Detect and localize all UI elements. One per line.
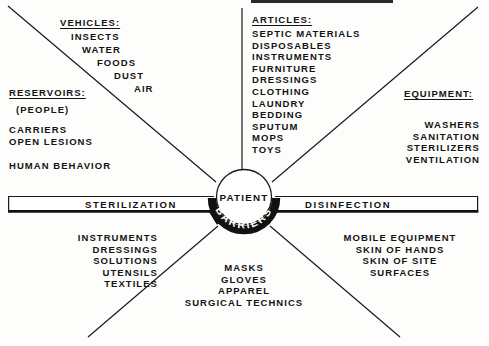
barrier-item-surgical-technics: SURGICAL TECHNICS: [168, 297, 320, 309]
disinfection-item-skin-of-hands: SKIN OF HANDS: [332, 244, 468, 256]
disinfection-label: DISINFECTION: [305, 199, 391, 210]
reservoirs-item-carriers: CARRIERS: [9, 124, 67, 136]
barrier-item-apparel: APPAREL: [168, 285, 320, 297]
articles-item-dressings: DRESSINGS: [252, 74, 360, 86]
disinfection-item-skin-of-site: SKIN OF SITE: [332, 255, 468, 267]
equipment-item-ventilation: VENTILATION: [368, 154, 480, 166]
vehicles-item-dust: DUST: [114, 70, 144, 82]
infection-control-diagram: BARRIERS PATIENT STERILIZATION DISINFECT…: [0, 0, 489, 346]
sterilization-item-utensils: UTENSILS: [26, 267, 158, 279]
barrier-item-gloves: GLOVES: [168, 274, 320, 286]
articles-item-clothing: CLOTHING: [252, 86, 360, 98]
vehicles-heading: VEHICLES:: [60, 17, 120, 29]
articles-item-sputum: SPUTUM: [252, 121, 360, 133]
patient-label: PATIENT: [215, 192, 273, 203]
vehicles-item-foods: FOODS: [97, 57, 136, 69]
equipment-heading: EQUIPMENT:: [404, 88, 473, 100]
sterilization-label: STERILIZATION: [85, 199, 177, 210]
equipment-list: WASHERS SANITATION STERILIZERS VENTILATI…: [368, 119, 480, 165]
articles-item-furniture: FURNITURE: [252, 63, 360, 75]
articles-item-bedding: BEDDING: [252, 109, 360, 121]
reservoirs-item-people: (PEOPLE): [16, 104, 69, 116]
articles-heading: ARTICLES:: [252, 14, 312, 26]
articles-item-mops: MOPS: [252, 132, 360, 144]
articles-item-toys: TOYS: [252, 144, 360, 156]
disinfection-item-surfaces: SURFACES: [332, 267, 468, 279]
reservoirs-item-human-behavior: HUMAN BEHAVIOR: [9, 160, 111, 172]
reservoirs-heading: RESERVOIRS:: [9, 87, 86, 99]
vehicles-item-water: WATER: [82, 44, 121, 56]
reservoirs-item-open-lesions: OPEN LESIONS: [9, 136, 93, 148]
disinfection-item-mobile-equipment: MOBILE EQUIPMENT: [332, 232, 468, 244]
articles-item-instruments: INSTRUMENTS: [252, 51, 360, 63]
barrier-items-list: MASKS GLOVES APPAREL SURGICAL TECHNICS: [168, 262, 320, 308]
articles-item-disposables: DISPOSABLES: [252, 40, 360, 52]
barrier-item-masks: MASKS: [168, 262, 320, 274]
sterilization-item-solutions: SOLUTIONS: [26, 255, 158, 267]
equipment-item-sanitation: SANITATION: [368, 131, 480, 143]
vehicles-item-insects: INSECTS: [71, 31, 120, 43]
sterilization-item-instruments: INSTRUMENTS: [26, 232, 158, 244]
articles-item-laundry: LAUNDRY: [252, 98, 360, 110]
equipment-item-washers: WASHERS: [368, 119, 480, 131]
equipment-item-sterilizers: STERILIZERS: [368, 142, 480, 154]
articles-item-septic-materials: SEPTIC MATERIALS: [252, 28, 360, 40]
disinfection-items-list: MOBILE EQUIPMENT SKIN OF HANDS SKIN OF S…: [332, 232, 468, 278]
sterilization-items-list: INSTRUMENTS DRESSINGS SOLUTIONS UTENSILS…: [26, 232, 158, 290]
sterilization-item-textiles: TEXTILES: [26, 278, 158, 290]
vehicles-item-air: AIR: [134, 83, 154, 95]
articles-list: SEPTIC MATERIALS DISPOSABLES INSTRUMENTS…: [252, 28, 360, 156]
sterilization-item-dressings: DRESSINGS: [26, 244, 158, 256]
